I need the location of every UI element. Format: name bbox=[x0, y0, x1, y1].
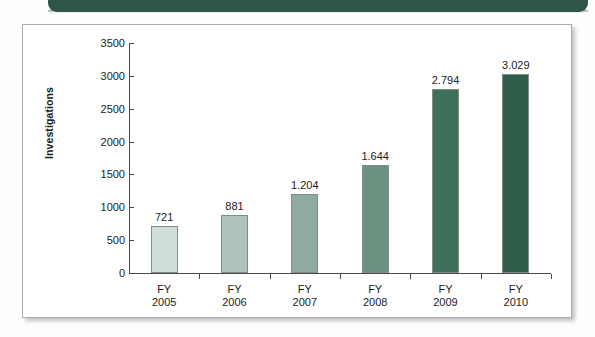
y-axis-tick-label: 1000 bbox=[85, 202, 125, 213]
y-axis-tick-label: 3000 bbox=[85, 71, 125, 82]
x-axis-category-label: FY2010 bbox=[481, 283, 551, 309]
bar-value-label: 1.644 bbox=[340, 151, 410, 162]
x-axis-category-label: FY2008 bbox=[340, 283, 410, 309]
bar-value-label: 1.204 bbox=[270, 180, 340, 191]
x-axis-category-line: FY bbox=[481, 283, 551, 296]
x-axis-category-line: 2005 bbox=[129, 296, 199, 309]
bar[interactable] bbox=[151, 226, 178, 273]
x-axis-category-label: FY2005 bbox=[129, 283, 199, 309]
chart-panel: Investigations 3500300025002000150010005… bbox=[22, 24, 572, 318]
x-axis-category-line: 2010 bbox=[481, 296, 551, 309]
x-axis-category-line: 2007 bbox=[270, 296, 340, 309]
bar[interactable] bbox=[291, 194, 318, 273]
y-axis-tick-label: 0 bbox=[85, 268, 125, 279]
bar-slot bbox=[291, 43, 318, 273]
x-axis-category-line: FY bbox=[270, 283, 340, 296]
x-axis-category-label: FY2006 bbox=[200, 283, 270, 309]
y-axis-tick-label: 2500 bbox=[85, 104, 125, 115]
bar[interactable] bbox=[502, 74, 529, 273]
bar-chart: Investigations 3500300025002000150010005… bbox=[23, 25, 573, 319]
bar-value-label: 881 bbox=[200, 201, 270, 212]
x-axis-category-label: FY2009 bbox=[411, 283, 481, 309]
bar[interactable] bbox=[221, 215, 248, 273]
bar-value-label: 3.029 bbox=[481, 60, 551, 71]
x-axis-category-line: FY bbox=[340, 283, 410, 296]
x-axis-category-line: 2009 bbox=[411, 296, 481, 309]
y-axis-tick-label: 2000 bbox=[85, 137, 125, 148]
x-axis-category-line: FY bbox=[129, 283, 199, 296]
y-axis-line bbox=[129, 43, 130, 273]
bar-slot bbox=[502, 43, 529, 273]
bar[interactable] bbox=[432, 89, 459, 273]
x-axis-category-line: FY bbox=[200, 283, 270, 296]
y-axis-tick-label: 500 bbox=[85, 235, 125, 246]
x-axis-tick-mark bbox=[410, 274, 411, 279]
y-axis-tick-label: 1500 bbox=[85, 169, 125, 180]
y-axis-title: Investigations bbox=[43, 53, 55, 193]
x-axis-tick-mark bbox=[340, 274, 341, 279]
y-axis-tick-label: 3500 bbox=[85, 38, 125, 49]
x-axis-category-label: FY2007 bbox=[270, 283, 340, 309]
top-banner-shadow bbox=[48, 10, 588, 13]
x-axis-tick-mark bbox=[270, 274, 271, 279]
x-axis-tick-mark bbox=[199, 274, 200, 279]
bar-value-label: 721 bbox=[129, 212, 199, 223]
x-axis-category-line: 2006 bbox=[200, 296, 270, 309]
x-axis-tick-mark bbox=[481, 274, 482, 279]
x-axis-tick-mark bbox=[551, 274, 552, 279]
bar-slot bbox=[151, 43, 178, 273]
bar[interactable] bbox=[362, 165, 389, 273]
bar-slot bbox=[221, 43, 248, 273]
x-axis-category-line: 2008 bbox=[340, 296, 410, 309]
x-axis-category-line: FY bbox=[411, 283, 481, 296]
bar-value-label: 2.794 bbox=[411, 75, 481, 86]
